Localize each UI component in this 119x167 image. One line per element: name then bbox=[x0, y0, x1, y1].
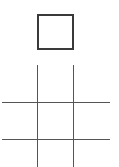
board-cell-1-2[interactable] bbox=[74, 103, 110, 139]
board-cell-1-0[interactable] bbox=[2, 103, 37, 139]
board-cell-0-0[interactable] bbox=[2, 65, 37, 102]
game-board bbox=[0, 0, 119, 167]
board-cell-2-1[interactable] bbox=[38, 140, 73, 167]
board-cell-2-2[interactable] bbox=[74, 140, 110, 167]
board-cell-1-1[interactable] bbox=[38, 103, 73, 139]
board-cell-0-2[interactable] bbox=[74, 65, 110, 102]
board-cell-0-1[interactable] bbox=[38, 65, 73, 102]
board-cell-2-0[interactable] bbox=[2, 140, 37, 167]
